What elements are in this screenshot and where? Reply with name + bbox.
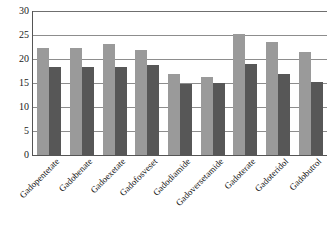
y-axis-tick-label: 15 (19, 78, 29, 88)
bar-series-1 (299, 52, 311, 155)
bar-group (98, 11, 131, 155)
bar-group (294, 11, 327, 155)
bar-series-2 (49, 67, 61, 155)
y-axis-tick-label: 5 (24, 126, 29, 136)
bar-series-1 (70, 48, 82, 155)
y-axis-tick-label: 0 (24, 150, 29, 160)
bar-series-2 (213, 83, 225, 155)
bar-series-2 (147, 65, 159, 155)
x-axis-tick-label: Gadoteridol (254, 157, 291, 194)
bar-series-2 (115, 67, 127, 155)
bar-group (229, 11, 262, 155)
bar-series-1 (201, 77, 213, 155)
y-axis-tick-label: 25 (19, 30, 29, 40)
plot-area (32, 11, 327, 156)
bar-group (33, 11, 66, 155)
bar-group (66, 11, 99, 155)
bars-layer (33, 11, 327, 155)
bar-series-1 (266, 42, 278, 155)
bar-series-2 (278, 74, 290, 155)
y-axis-tick-label: 10 (19, 102, 29, 112)
bar-chart: 051015202530 GadopentetateGadobenateGado… (0, 0, 329, 231)
bar-series-1 (135, 50, 147, 155)
bar-series-1 (103, 44, 115, 155)
bar-series-2 (180, 84, 192, 155)
bar-series-2 (311, 82, 323, 155)
x-axis: GadopentetateGadobenateGadoexetateGadofo… (32, 157, 326, 231)
bar-series-1 (37, 48, 49, 155)
bar-group (164, 11, 197, 155)
bar-series-1 (233, 34, 245, 155)
bar-series-2 (245, 64, 257, 155)
y-axis-tick-label: 30 (19, 6, 29, 16)
y-axis-tick-label: 20 (19, 54, 29, 64)
bar-series-1 (168, 74, 180, 155)
bar-group (131, 11, 164, 155)
bar-series-2 (82, 67, 94, 155)
bar-group (196, 11, 229, 155)
bar-group (262, 11, 295, 155)
x-axis-tick-label: Gadobutrol (288, 157, 323, 192)
